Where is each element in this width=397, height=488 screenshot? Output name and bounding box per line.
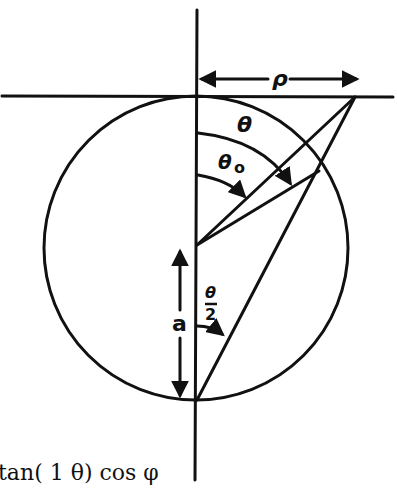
diagram-canvas: ρ θ θ o θ 2 a tan( 1 θ) cos φ <box>0 0 397 488</box>
theta0-subscript: o <box>234 158 245 177</box>
line-p-to-bottom <box>197 97 355 400</box>
line-q-to-center <box>197 171 319 245</box>
half-theta-denominator: 2 <box>205 305 216 324</box>
half-theta-arc <box>197 326 222 334</box>
half-theta-numerator: θ <box>205 283 216 302</box>
theta-label: θ <box>237 112 252 137</box>
theta0-label: θ <box>218 150 232 174</box>
a-label: a <box>172 311 187 336</box>
rho-label: ρ <box>272 66 288 91</box>
equation-fragment: tan( 1 θ) cos φ <box>0 460 159 485</box>
geometry-figure <box>0 0 397 488</box>
theta0-arc <box>198 175 244 196</box>
